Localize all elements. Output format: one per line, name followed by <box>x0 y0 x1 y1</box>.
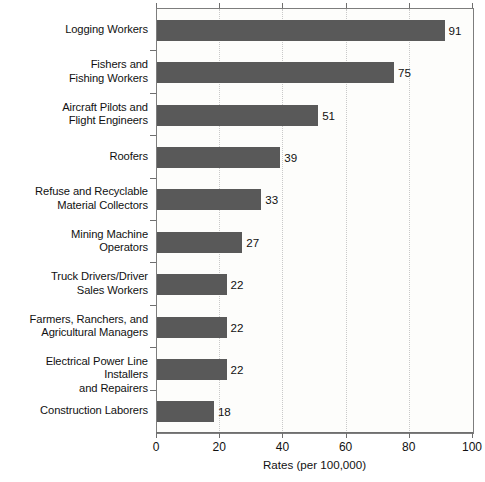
x-axis-tick-top <box>346 3 347 8</box>
y-axis-tick <box>150 93 156 94</box>
x-axis-line <box>156 432 473 433</box>
bar <box>157 62 394 83</box>
bar-value-label: 39 <box>284 147 297 168</box>
x-axis-tick <box>282 433 283 438</box>
category-axis-labels: Logging WorkersFishers and Fishing Worke… <box>0 8 152 432</box>
category-label: Refuse and Recyclable Material Collector… <box>0 185 148 212</box>
y-axis-tick <box>150 390 156 391</box>
x-axis-tick-top <box>472 3 473 8</box>
bar-value-label: 75 <box>398 62 411 83</box>
bar <box>157 359 227 380</box>
bar <box>157 20 445 41</box>
x-axis-tick-top <box>156 3 157 8</box>
y-axis-tick <box>150 347 156 348</box>
bar <box>157 232 242 253</box>
y-axis-tick <box>150 135 156 136</box>
x-axis-tick-top <box>409 3 410 8</box>
x-axis-tick <box>219 433 220 438</box>
x-axis-tick-label: 0 <box>136 440 176 454</box>
category-label: Fishers and Fishing Workers <box>0 58 148 85</box>
category-label: Logging Workers <box>0 23 148 36</box>
x-axis-tick-label: 40 <box>262 440 302 454</box>
bar-value-label: 22 <box>231 359 244 380</box>
bar-chart: Logging WorkersFishers and Fishing Worke… <box>0 0 485 482</box>
y-axis-tick <box>150 178 156 179</box>
x-axis-tick <box>472 433 473 438</box>
bar-value-label: 27 <box>246 232 259 253</box>
bar <box>157 189 261 210</box>
category-label: Truck Drivers/Driver Sales Workers <box>0 270 148 297</box>
bar-value-label: 91 <box>449 20 462 41</box>
y-axis-tick <box>150 50 156 51</box>
bar-value-label: 22 <box>231 317 244 338</box>
category-label: Mining Machine Operators <box>0 228 148 255</box>
x-axis-tick-top <box>282 3 283 8</box>
bar <box>157 317 227 338</box>
y-axis-tick <box>150 305 156 306</box>
category-label: Construction Laborers <box>0 404 148 417</box>
bar <box>157 274 227 295</box>
y-axis-tick <box>150 220 156 221</box>
x-axis-tick <box>346 433 347 438</box>
category-label: Roofers <box>0 150 148 163</box>
x-axis-tick-label: 100 <box>452 440 485 454</box>
x-axis-tick-label: 20 <box>199 440 239 454</box>
x-axis-tick <box>156 433 157 438</box>
x-axis-tick-label: 80 <box>389 440 429 454</box>
y-axis-tick <box>150 262 156 263</box>
bar <box>157 147 280 168</box>
category-label: Aircraft Pilots and Flight Engineers <box>0 101 148 128</box>
category-label: Farmers, Ranchers, and Agricultural Mana… <box>0 313 148 340</box>
category-label: Electrical Power Line Installers and Rep… <box>0 355 148 395</box>
bar <box>157 401 214 422</box>
x-axis-title: Rates (per 100,000) <box>156 458 473 471</box>
x-axis-tick-label: 60 <box>326 440 366 454</box>
x-axis-tick <box>409 433 410 438</box>
bar-value-label: 18 <box>218 401 231 422</box>
plot-area: 91755139332722222218 <box>156 8 474 434</box>
bar-value-label: 51 <box>322 105 335 126</box>
bar-value-label: 22 <box>231 274 244 295</box>
x-axis-tick-top <box>219 3 220 8</box>
bar-value-label: 33 <box>265 189 278 210</box>
bar <box>157 105 318 126</box>
